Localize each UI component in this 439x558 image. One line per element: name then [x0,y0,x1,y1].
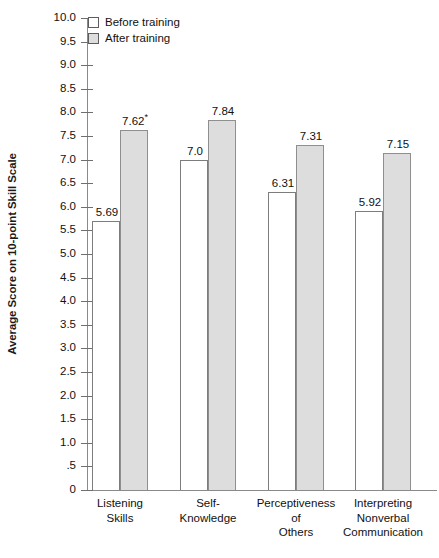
y-axis-tick-label: 3.5 [28,319,76,331]
y-axis-tick-label: 1.0 [28,437,76,449]
x-axis-line [87,490,437,491]
x-axis-category-line: Skills [75,511,165,526]
y-axis-tick-label-text: .5 [28,460,76,472]
y-axis-tick-label-text: 6.0 [28,201,76,213]
bar-before-2 [268,192,296,490]
x-axis-category-line: Nonverbal [338,511,428,526]
bar-after-0 [120,130,148,490]
y-axis-tick-label: 5.0 [28,248,76,260]
y-axis-tick-label: 5.5 [28,224,76,236]
y-axis-tick-label-text: 1.0 [28,437,76,449]
legend: Before training After training [88,14,180,46]
y-axis-tick-label-text: 10.0 [28,12,76,24]
y-axis-tick-label: 4.0 [28,295,76,307]
bar-before-0 [92,221,120,490]
legend-label-after: After training [105,32,170,44]
y-axis-tick-label: 7.0 [28,154,76,166]
y-axis-tick [81,136,93,137]
y-axis-title: Average Score on 10-point Skill Scale [6,18,24,490]
y-axis-tick-label-text: 8.0 [28,106,76,118]
y-axis-tick-label-text: 7.5 [28,130,76,142]
bar-chart: Average Score on 10-point Skill Scale 10… [0,0,439,558]
bar-after-2 [296,145,324,490]
x-axis-category-label-2: PerceptivenessofOthers [251,496,341,540]
y-axis-tick-label: 8.5 [28,83,76,95]
bar-before-3 [355,211,383,490]
bar-value-label: 7.84 [205,105,241,117]
x-axis-category-line: Perceptiveness [251,496,341,511]
y-axis-tick-label-text: 4.5 [28,272,76,284]
y-axis-tick-label: 1.5 [28,413,76,425]
y-axis-tick-label-text: 0 [28,484,76,496]
y-axis-tick-label: 6.5 [28,177,76,189]
y-axis-tick-label: 9.0 [28,59,76,71]
y-axis-tick-label: 8.0 [28,106,76,118]
y-axis-tick [81,490,93,491]
bar-before-1 [180,160,208,490]
y-axis-tick [81,65,93,66]
y-axis-tick-label: 3.0 [28,342,76,354]
x-axis-category-label-3: InterpretingNonverbalCommunication [338,496,428,540]
y-axis-tick-label-text: 6.5 [28,177,76,189]
y-axis-tick-label: .5 [28,460,76,472]
x-axis-category-label-0: ListeningSkills [75,496,165,525]
legend-swatch-after-icon [88,33,99,44]
y-axis-tick-label-text: 5.5 [28,224,76,236]
y-axis-tick-label-text: 2.5 [28,366,76,378]
y-axis-tick-label-text: 4.0 [28,295,76,307]
y-axis-tick-label-text: 9.0 [28,59,76,71]
y-axis-tick-label-text: 8.5 [28,83,76,95]
x-axis-category-line: Interpreting [338,496,428,511]
y-axis-tick-label-text: 7.0 [28,154,76,166]
x-axis-category-line: Listening [75,496,165,511]
bar-value-label: 7.15 [380,138,416,150]
y-axis-tick-label-text: 3.5 [28,319,76,331]
y-axis-tick-label: 2.0 [28,390,76,402]
y-axis-tick [81,183,93,184]
bar-value-label: 7.31 [293,130,329,142]
y-axis-tick-label: 4.5 [28,272,76,284]
legend-item-after: After training [88,30,180,46]
y-axis-tick-label-text: 9.5 [28,36,76,48]
y-axis-tick-label-text: 3.0 [28,342,76,354]
legend-item-before: Before training [88,14,180,30]
x-axis-category-line: Knowledge [163,511,253,526]
bar-value-label: 7.62* [117,115,153,127]
y-axis-tick-label: 9.5 [28,36,76,48]
bar-after-3 [383,153,411,490]
y-axis-tick-label: 7.5 [28,130,76,142]
x-axis-category-line: Self- [163,496,253,511]
x-axis-category-line: Communication [338,525,428,540]
x-axis-category-label-1: Self-Knowledge [163,496,253,525]
y-axis-tick-label-text: 5.0 [28,248,76,260]
x-axis-category-line: of [251,511,341,526]
y-axis-tick-label: 6.0 [28,201,76,213]
legend-swatch-before-icon [88,17,99,28]
y-axis-tick [81,160,93,161]
y-axis-tick [81,89,93,90]
y-axis-tick [81,112,93,113]
y-axis-tick-label: 2.5 [28,366,76,378]
legend-label-before: Before training [105,16,180,28]
bar-after-1 [208,120,236,490]
y-axis-tick-label-text: 2.0 [28,390,76,402]
y-axis-tick-label: 10.0 [28,12,76,24]
y-axis-tick-label: 0 [28,484,76,496]
x-axis-category-line: Others [251,525,341,540]
y-axis-tick-label-text: 1.5 [28,413,76,425]
